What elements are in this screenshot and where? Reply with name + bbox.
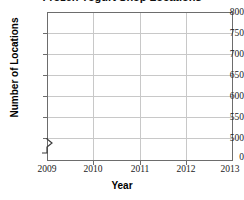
- chart-title: Frozen Yogurt Shop Locations: [0, 0, 244, 3]
- y-tick-label: 700: [218, 50, 244, 60]
- y-tick-label: 650: [218, 71, 244, 81]
- y-tick-mark: [43, 33, 47, 34]
- chart-figure: Frozen Yogurt Shop Locations Number of L…: [0, 0, 244, 200]
- gridline-vertical: [186, 13, 187, 160]
- x-tick-label: 2009: [27, 164, 67, 174]
- y-tick-label: 750: [218, 29, 244, 39]
- y-tick-label: 550: [218, 113, 244, 123]
- y-tick-label: 500: [218, 134, 244, 144]
- y-tick-label: 0: [218, 153, 244, 163]
- x-axis-title: Year: [0, 180, 244, 191]
- x-tick-label: 2011: [120, 164, 160, 174]
- plot-area: [47, 12, 233, 161]
- gridline-vertical: [93, 13, 94, 160]
- x-tick-label: 2013: [210, 164, 244, 174]
- y-tick-label: 600: [218, 92, 244, 102]
- x-tick-label: 2012: [166, 164, 206, 174]
- y-tick-mark: [43, 117, 47, 118]
- y-axis-title: Number of Locations: [9, 0, 20, 138]
- x-tick-label: 2010: [73, 164, 113, 174]
- y-tick-label: 800: [218, 8, 244, 18]
- axis-break-icon: [41, 138, 54, 154]
- y-tick-mark: [43, 75, 47, 76]
- y-tick-mark: [43, 96, 47, 97]
- y-tick-mark: [43, 54, 47, 55]
- gridline-vertical: [140, 13, 141, 160]
